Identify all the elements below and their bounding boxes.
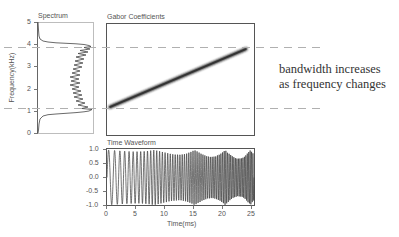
waveform-ytick: 1.0	[89, 145, 99, 152]
waveform-xtick: 15	[189, 210, 197, 217]
waveform-ytick: -1.0	[86, 201, 98, 208]
spectrum-ylabel: Frequency(kHz)	[8, 48, 15, 108]
spectrum-ytick: 5	[27, 18, 31, 25]
spectrum-ytick: 4	[27, 40, 31, 47]
waveform-title: Time Waveform	[107, 139, 156, 146]
spectrum-ytick: 0	[27, 129, 31, 136]
annotation-line-1: bandwidth increases	[279, 62, 381, 77]
waveform-ytick: -0.5	[86, 187, 98, 194]
chirp-waveform	[107, 150, 254, 205]
chart-graphics	[0, 0, 399, 237]
waveform-xtick: 0	[104, 210, 108, 217]
gabor-plot	[107, 24, 255, 136]
spectrum-ytick: 1	[27, 107, 31, 114]
waveform-ytick: 0.0	[89, 173, 99, 180]
waveform-ytick: 0.5	[89, 159, 99, 166]
spectrum-title: Spectrum	[38, 12, 68, 19]
waveform-xlabel: Time(ms)	[167, 220, 196, 227]
spectrum-plot	[34, 22, 94, 134]
waveform-xtick: 20	[218, 210, 226, 217]
reference-lines	[4, 48, 326, 109]
waveform-xtick: 5	[133, 210, 137, 217]
waveform-xtick: 25	[247, 210, 255, 217]
waveform-plot	[103, 149, 255, 210]
annotation-line-2: as frequency changes	[279, 77, 386, 92]
waveform-xtick: 10	[160, 210, 168, 217]
gabor-title: Gabor Coefficients	[107, 13, 165, 20]
spectrum-ytick: 2	[27, 85, 31, 92]
spectrum-curve	[38, 22, 92, 133]
spectrum-ytick: 3	[27, 62, 31, 69]
